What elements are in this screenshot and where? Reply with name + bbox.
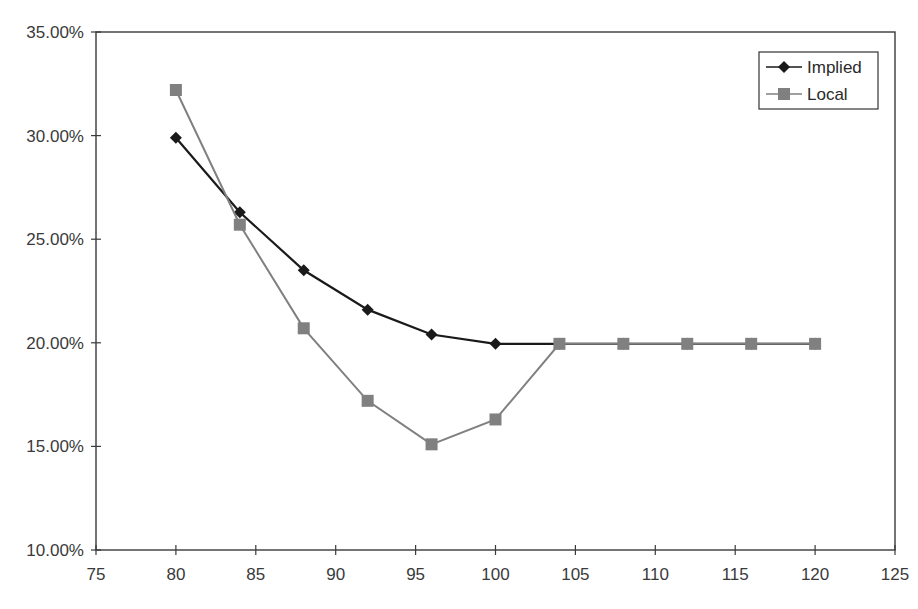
diamond-marker: [426, 329, 438, 341]
x-tick-label: 90: [326, 565, 345, 584]
series-layer: [170, 84, 821, 450]
series-local: [170, 84, 821, 450]
square-marker: [298, 322, 310, 334]
series-line: [176, 90, 815, 444]
legend-label-local: Local: [807, 85, 848, 104]
x-tick-label: 105: [561, 565, 589, 584]
series-implied: [170, 132, 821, 350]
x-tick-label: 100: [481, 565, 509, 584]
y-tick-label: 10.00%: [26, 541, 84, 560]
square-marker: [553, 338, 565, 350]
diamond-marker: [490, 338, 502, 350]
y-tick-label: 25.00%: [26, 230, 84, 249]
square-marker: [745, 338, 757, 350]
square-marker: [362, 395, 374, 407]
x-tick-label: 95: [406, 565, 425, 584]
square-marker: [681, 338, 693, 350]
y-tick-label: 30.00%: [26, 127, 84, 146]
y-tick-label: 35.00%: [26, 23, 84, 42]
diamond-marker: [362, 304, 374, 316]
line-chart: 10.00%15.00%20.00%25.00%30.00%35.00%7580…: [0, 0, 918, 609]
square-marker: [170, 84, 182, 96]
plot-area-frame: [96, 32, 895, 550]
square-marker: [426, 438, 438, 450]
square-marker: [617, 338, 629, 350]
x-tick-label: 85: [246, 565, 265, 584]
legend-label-implied: Implied: [807, 58, 862, 77]
square-marker-icon: [778, 88, 790, 100]
x-tick-label: 75: [87, 565, 106, 584]
square-marker: [234, 219, 246, 231]
legend: Implied Local: [759, 52, 878, 109]
x-tick-label: 80: [166, 565, 185, 584]
x-tick-label: 120: [801, 565, 829, 584]
square-marker: [490, 413, 502, 425]
y-tick-label: 20.00%: [26, 334, 84, 353]
x-tick-label: 115: [722, 565, 749, 584]
series-line: [176, 138, 815, 344]
y-tick-label: 15.00%: [26, 437, 84, 456]
x-tick-label: 110: [642, 565, 669, 584]
x-tick-label: 125: [881, 565, 909, 584]
square-marker: [809, 338, 821, 350]
